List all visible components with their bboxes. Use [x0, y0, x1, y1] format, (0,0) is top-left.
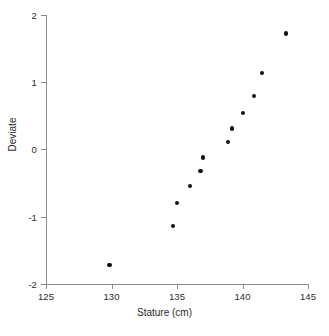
- data-point: [198, 169, 202, 173]
- y-axis-title: Deviate: [7, 105, 18, 165]
- y-tick-label: 2: [32, 9, 37, 20]
- x-tick-label: 140: [234, 291, 250, 302]
- x-tick-label: 125: [38, 291, 54, 302]
- x-tick-label: 145: [300, 291, 316, 302]
- data-point: [230, 126, 234, 130]
- y-tick-label: 1: [32, 77, 37, 88]
- x-tick-mark: [243, 284, 244, 289]
- normal-probability-plot: 210-1-2 125130135140145 Deviate Stature …: [0, 0, 329, 336]
- y-tick-label: -2: [28, 279, 37, 290]
- plot-area: [46, 15, 308, 284]
- y-tick-label: -1: [28, 211, 37, 222]
- data-point: [201, 155, 205, 159]
- x-tick-label: 130: [103, 291, 119, 302]
- x-axis-title: Stature (cm): [0, 307, 329, 318]
- x-tick-label: 135: [169, 291, 185, 302]
- x-tick-mark: [112, 284, 113, 289]
- y-tick-label: 0: [32, 144, 37, 155]
- data-point: [107, 263, 111, 267]
- x-tick-mark: [46, 284, 47, 289]
- x-tick-mark: [308, 284, 309, 289]
- x-tick-mark: [177, 284, 178, 289]
